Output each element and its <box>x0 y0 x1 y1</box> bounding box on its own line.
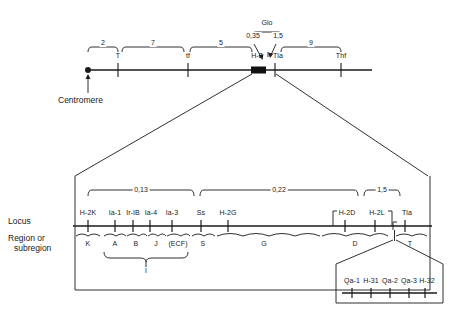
chromosome-map-group <box>85 32 372 93</box>
glo-label: Glo <box>261 19 272 27</box>
interval-value-9: 9 <box>308 39 315 47</box>
interval-value-15: 1,5 <box>272 32 285 40</box>
region-label-A: A <box>113 240 118 248</box>
region-brace-A <box>104 234 126 236</box>
chromosome-locus-Thf: Thf <box>336 52 346 60</box>
region-axis-label-line1: Region or <box>8 233 45 243</box>
region-brace-ECF <box>167 234 190 236</box>
inset-locus-Qa-3: Qa-3 <box>401 277 417 285</box>
chromosome-locus-T: T <box>116 52 120 60</box>
distance-value-013: 0,13 <box>133 186 150 194</box>
expanded-locus-H-2G: H-2G <box>219 209 236 217</box>
region-brace-T <box>396 234 427 236</box>
region-label-G: G <box>261 240 267 248</box>
interval-value-7: 7 <box>150 39 157 47</box>
chromosome-locus-tf: tf <box>186 52 190 60</box>
region-brace-G <box>217 234 320 237</box>
centromere-label: Centromere <box>58 95 103 105</box>
i-region-label: I <box>145 267 147 275</box>
expanded-locus-H-2D: H-2D <box>339 209 356 217</box>
region-brace-D <box>322 234 388 237</box>
inset-connector-right <box>396 240 443 264</box>
interval-value-2: 2 <box>100 39 107 47</box>
expanded-locus-Ir-IB: Ir-IB <box>126 209 140 217</box>
chromosome-locus-Tla: Tla <box>273 52 283 60</box>
interval-bracket-9 <box>281 47 341 52</box>
region-label-S: S <box>201 240 206 248</box>
expansion-connector-right <box>276 74 428 176</box>
expanded-map-group <box>73 190 432 267</box>
interval-value-035: 0,35 <box>245 32 262 40</box>
inset-locus-H-32: H-32 <box>419 277 435 285</box>
region-brace-S <box>192 234 215 236</box>
i-region-brace <box>104 252 188 262</box>
inset-locus-Qa-2: Qa-2 <box>382 277 398 285</box>
figure-root: 2 7 5 0,35 1,5 9 Glo T tf H-2 Tla Thf Ce… <box>0 0 456 312</box>
centromere-arrow-head <box>86 74 91 79</box>
region-brace-B <box>127 234 147 236</box>
expanded-locus-Ia-3: Ia-3 <box>166 209 178 217</box>
expanded-locus-Ia-1: Ia-1 <box>109 209 121 217</box>
interval-bracket-7 <box>122 47 184 52</box>
region-label-T: T <box>408 240 412 248</box>
region-label-J: J <box>154 240 158 248</box>
inset-locus-H-31: H-31 <box>363 277 379 285</box>
region-brace-group <box>76 234 427 237</box>
distance-value-15: 1,5 <box>376 186 389 194</box>
h2-block <box>251 67 266 74</box>
region-brace-K <box>76 234 100 236</box>
expansion-connector-group <box>75 74 428 176</box>
distance-value-022: 0,22 <box>271 186 288 194</box>
expansion-connector-left <box>75 74 252 176</box>
diagram-vector-layer <box>0 0 456 312</box>
centromere-dot <box>85 67 91 73</box>
expanded-locus-Tla: Tla <box>402 209 412 217</box>
inset-locus-Qa-1: Qa-1 <box>344 277 360 285</box>
expanded-locus-Ss: Ss <box>197 209 205 217</box>
inset-connector-left <box>336 240 393 264</box>
region-brace-J <box>148 234 166 236</box>
interval-value-5: 5 <box>218 39 225 47</box>
expanded-locus-H-2L: H-2L <box>369 209 385 217</box>
interval-bracket-2 <box>88 47 118 52</box>
interval-bracket-5 <box>190 47 252 52</box>
chromosome-locus-H-2: H-2 <box>251 52 263 60</box>
region-label-ECF: (ECF) <box>168 240 187 248</box>
region-label-K: K <box>86 240 91 248</box>
region-label-D: D <box>352 240 357 248</box>
region-axis-label-line2: subregion <box>14 243 51 253</box>
region-label-B: B <box>134 240 139 248</box>
expanded-locus-H-2K: H-2K <box>80 209 96 217</box>
locus-axis-label: Locus <box>8 216 31 226</box>
expanded-locus-Ia-4: Ia-4 <box>145 209 157 217</box>
